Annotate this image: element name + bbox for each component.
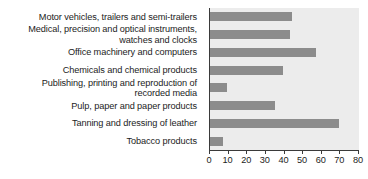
x-tick-label: 60 <box>316 155 326 166</box>
category-label: Chemicals and chemical products <box>63 65 197 75</box>
bar-chart: Motor vehicles, trailers and semi-traile… <box>0 0 368 179</box>
x-tick-label: 50 <box>297 155 307 166</box>
x-tick-label: 40 <box>278 155 288 166</box>
x-tick <box>339 150 340 154</box>
x-tick <box>321 150 322 154</box>
bar <box>210 12 292 21</box>
bar <box>210 30 290 39</box>
bar <box>210 137 223 146</box>
category-label: Medical, precision and optical instrumen… <box>28 24 197 44</box>
x-tick <box>265 150 266 154</box>
category-label: Tobacco products <box>127 136 197 146</box>
x-tick-label: 70 <box>334 155 344 166</box>
bar <box>210 119 339 128</box>
category-label-column: Motor vehicles, trailers and semi-traile… <box>0 8 202 150</box>
category-label: Motor vehicles, trailers and semi-traile… <box>39 12 197 22</box>
x-tick <box>228 150 229 154</box>
x-tick <box>209 150 210 154</box>
x-tick-label: 20 <box>241 155 251 166</box>
x-tick-label: 0 <box>206 155 211 166</box>
category-label: Pulp, paper and paper products <box>71 101 197 111</box>
x-tick <box>358 150 359 154</box>
x-tick <box>246 150 247 154</box>
plot-area <box>209 8 359 150</box>
x-tick-label: 80 <box>353 155 363 166</box>
category-label: Office machinery and computers <box>68 47 197 57</box>
bar <box>210 66 283 75</box>
x-tick <box>302 150 303 154</box>
bar <box>210 48 316 57</box>
category-label: Publishing, printing and reproduction of… <box>42 78 197 98</box>
x-tick-label: 30 <box>260 155 270 166</box>
x-tick <box>284 150 285 154</box>
bar <box>210 83 227 92</box>
x-tick-label: 10 <box>223 155 233 166</box>
bar <box>210 101 275 110</box>
category-label: Tanning and dressing of leather <box>72 118 197 128</box>
